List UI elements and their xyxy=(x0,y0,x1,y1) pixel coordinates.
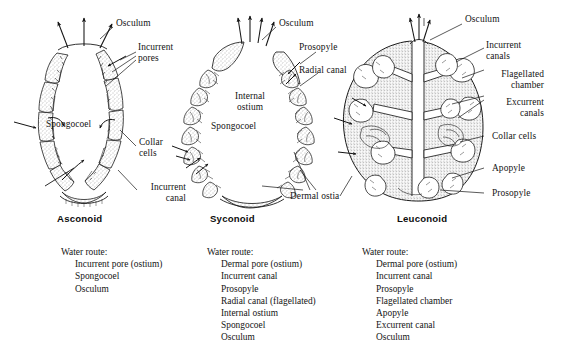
list-item: Excurrent canal xyxy=(376,319,457,331)
list-item: Dermal pore (ostium) xyxy=(376,258,457,270)
syconoid-label-dermal-ostia: Dermal ostia xyxy=(290,191,339,202)
list-item: Incurrent pore (ostium) xyxy=(75,258,162,270)
leuconoid-caption: Leuconoid xyxy=(397,213,447,224)
sponge-body-types-figure: Osculum Incurrentpores Spongocoel Collar… xyxy=(0,0,566,362)
asconoid-water-route-list: Incurrent pore (ostium) Spongocoel Oscul… xyxy=(61,258,162,295)
list-item: Prosopyle xyxy=(221,283,316,295)
syconoid-label-osculum: Osculum xyxy=(279,18,314,29)
leuconoid-label-apopyle: Apopyle xyxy=(492,163,525,174)
list-item: Spongocoel xyxy=(221,319,316,331)
list-item: Incurrent canal xyxy=(221,270,316,282)
list-item: Radial canal (flagellated) xyxy=(221,295,316,307)
leuconoid-water-route: Water route: Dermal pore (ostium) Incurr… xyxy=(362,246,457,344)
list-item: Osculum xyxy=(75,283,162,295)
asconoid-label-osculum: Osculum xyxy=(116,18,151,29)
leuconoid-water-route-title: Water route: xyxy=(362,246,457,258)
list-item: Apopyle xyxy=(376,307,457,319)
asconoid-label-collar-cells: Collarcells xyxy=(139,137,183,159)
list-item: Osculum xyxy=(376,331,457,343)
leuconoid-label-prosopyle: Prosopyle xyxy=(492,188,530,199)
leuconoid-label-flagellated-chamber: Flagellatedchamber xyxy=(480,69,544,91)
asconoid-drawing xyxy=(14,18,137,207)
list-item: Dermal pore (ostium) xyxy=(221,258,316,270)
leuconoid-label-incurrent-canals: Incurrentcanals xyxy=(486,40,542,62)
syconoid-caption: Syconoid xyxy=(210,213,255,224)
leuconoid-label-excurrent-canals: Excurrentcanals xyxy=(484,97,544,119)
list-item: Flagellated chamber xyxy=(376,295,457,307)
syconoid-label-spongocoel: Spongocoel xyxy=(211,121,256,132)
syconoid-water-route: Water route: Dermal pore (ostium) Incurr… xyxy=(207,246,316,344)
syconoid-label-internal-ostium: Internalostium xyxy=(216,91,284,113)
asconoid-label-incurrent-pores: Incurrentpores xyxy=(138,42,198,64)
leuconoid-water-route-list: Dermal pore (ostium) Incurrent canal Pro… xyxy=(362,258,457,343)
asconoid-label-spongocoel: Spongocoel xyxy=(46,119,91,130)
leuconoid-drawing xyxy=(334,14,484,201)
list-item: Incurrent canal xyxy=(376,270,457,282)
list-item: Spongocoel xyxy=(75,270,162,282)
syconoid-label-radial-canal: Radial canal xyxy=(299,65,347,76)
list-item: Prosopyle xyxy=(376,283,457,295)
asconoid-caption: Asconoid xyxy=(57,213,102,224)
leuconoid-label-osculum: Osculum xyxy=(465,14,500,25)
asconoid-label-incurrent-canal: Incurrentcanal xyxy=(130,182,186,204)
syconoid-label-prosopyle: Prosopyle xyxy=(299,42,337,53)
asconoid-water-route: Water route: Incurrent pore (ostium) Spo… xyxy=(61,246,162,295)
list-item: Osculum xyxy=(221,331,316,343)
syconoid-water-route-title: Water route: xyxy=(207,246,316,258)
leuconoid-label-collar-cells: Collar cells xyxy=(492,131,536,142)
list-item: Internal ostium xyxy=(221,307,316,319)
asconoid-water-route-title: Water route: xyxy=(61,246,162,258)
syconoid-water-route-list: Dermal pore (ostium) Incurrent canal Pro… xyxy=(207,258,316,343)
